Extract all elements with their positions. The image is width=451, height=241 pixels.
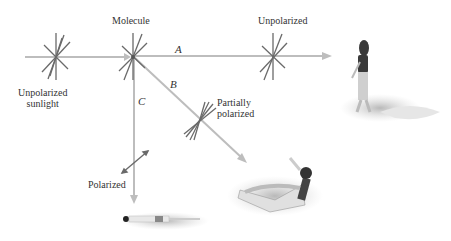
label-unpolarized-sunlight-line2: sunlight <box>18 98 67 109</box>
label-unpolarized: Unpolarized <box>258 15 307 26</box>
label-partially-line1: Partially <box>217 97 254 108</box>
label-path-a: A <box>175 44 182 55</box>
lounging-person-figure <box>227 158 323 216</box>
label-polarized: Polarized <box>88 179 126 190</box>
walking-person-figure <box>340 40 440 122</box>
molecule-dot <box>131 55 135 59</box>
arrowhead-a <box>322 52 332 60</box>
label-molecule: Molecule <box>112 15 150 26</box>
arrowhead-c <box>130 195 138 204</box>
label-partially-polarized: Partially polarized <box>217 97 254 119</box>
lying-person-figure <box>121 212 209 230</box>
label-path-c: C <box>138 96 145 107</box>
label-unpolarized-sunlight: Unpolarized sunlight <box>18 87 67 109</box>
label-partially-line2: polarized <box>217 108 254 119</box>
scattering-diagram <box>0 0 451 241</box>
label-path-b: B <box>170 79 177 90</box>
label-unpolarized-sunlight-line1: Unpolarized <box>18 87 67 98</box>
